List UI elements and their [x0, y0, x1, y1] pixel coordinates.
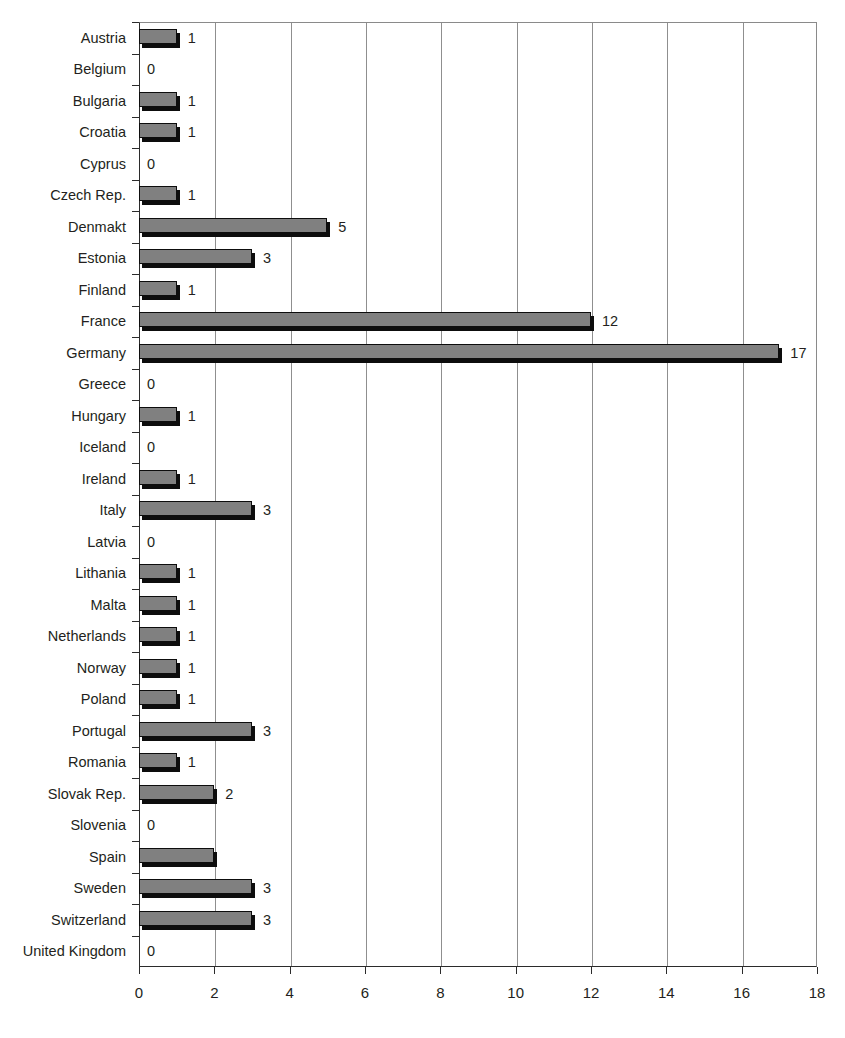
bar-value-label: 3	[263, 913, 271, 928]
x-axis-tick	[817, 967, 818, 974]
bar	[139, 785, 218, 805]
bar-value-label: 3	[263, 724, 271, 739]
y-axis-tick	[132, 747, 139, 748]
gridline	[215, 23, 216, 966]
y-axis-tick	[132, 495, 139, 496]
x-axis-label: 8	[436, 985, 444, 1000]
x-axis-label: 6	[361, 985, 369, 1000]
y-axis-tick	[132, 904, 139, 905]
gridline	[517, 23, 518, 966]
bar-value-label: 1	[188, 692, 196, 707]
bar	[139, 218, 331, 238]
bar-body	[139, 218, 327, 233]
gridline	[441, 23, 442, 966]
bar	[139, 123, 181, 143]
bar	[139, 281, 181, 301]
category-label: Germany	[0, 346, 126, 361]
category-label: United Kingdom	[0, 944, 126, 959]
bar-body	[139, 470, 177, 485]
bar-value-label: 1	[188, 598, 196, 613]
bar	[139, 911, 256, 931]
x-axis-label: 4	[285, 985, 293, 1000]
bar-body	[139, 659, 177, 674]
bar-value-label: 1	[188, 409, 196, 424]
y-axis-tick	[132, 652, 139, 653]
bar-value-label: 17	[790, 346, 806, 361]
x-axis-tick	[440, 967, 441, 974]
y-axis-tick	[132, 22, 139, 23]
bar-body	[139, 92, 177, 107]
bar-value-label: 3	[263, 881, 271, 896]
category-label: Romania	[0, 755, 126, 770]
bar-body	[139, 722, 252, 737]
gridline	[291, 23, 292, 966]
bar-body	[139, 501, 252, 516]
bar-body	[139, 344, 779, 359]
zero-value-label: 0	[147, 62, 155, 77]
y-axis-tick	[132, 589, 139, 590]
bar-value-label: 1	[188, 661, 196, 676]
y-axis-tick	[132, 715, 139, 716]
bar-body	[139, 312, 591, 327]
bar-value-label: 2	[225, 787, 233, 802]
bar-value-label: 1	[188, 283, 196, 298]
bar-body	[139, 848, 214, 863]
bar-body	[139, 690, 177, 705]
category-label: Portugal	[0, 724, 126, 739]
bar-value-label: 1	[188, 94, 196, 109]
x-axis-label: 0	[135, 985, 143, 1000]
category-label: Netherlands	[0, 629, 126, 644]
x-axis-tick	[742, 967, 743, 974]
x-axis-tick	[139, 967, 140, 974]
bar-body	[139, 911, 252, 926]
bar-body	[139, 249, 252, 264]
bar-body	[139, 596, 177, 611]
category-label: Bulgaria	[0, 94, 126, 109]
y-axis-tick	[132, 243, 139, 244]
zero-value-label: 0	[147, 440, 155, 455]
category-label: France	[0, 314, 126, 329]
category-label: Czech Rep.	[0, 188, 126, 203]
bar-body	[139, 29, 177, 44]
y-axis-tick	[132, 337, 139, 338]
category-label: Malta	[0, 598, 126, 613]
x-axis-tick	[290, 967, 291, 974]
x-axis-tick	[365, 967, 366, 974]
bar-body	[139, 186, 177, 201]
bar-body	[139, 627, 177, 642]
category-label: Austria	[0, 31, 126, 46]
x-axis-label: 14	[658, 985, 675, 1000]
y-axis-tick	[132, 180, 139, 181]
x-axis-tick	[666, 967, 667, 974]
zero-value-label: 0	[147, 944, 155, 959]
x-axis-label: 16	[733, 985, 750, 1000]
category-label: Estonia	[0, 251, 126, 266]
bar-body	[139, 281, 177, 296]
plot-area	[139, 22, 817, 967]
bar-value-label: 3	[263, 251, 271, 266]
category-label: Cyprus	[0, 157, 126, 172]
category-label: Spain	[0, 850, 126, 865]
bar	[139, 470, 181, 490]
y-axis-tick	[132, 621, 139, 622]
bar-body	[139, 879, 252, 894]
bar	[139, 753, 181, 773]
x-axis-label: 10	[507, 985, 524, 1000]
y-axis-tick	[132, 85, 139, 86]
bar	[139, 312, 595, 332]
x-axis-tick	[214, 967, 215, 974]
bar-value-label: 1	[188, 31, 196, 46]
category-label: Hungary	[0, 409, 126, 424]
bar	[139, 29, 181, 49]
x-axis-label: 2	[210, 985, 218, 1000]
y-axis-tick	[132, 810, 139, 811]
y-axis-tick	[132, 558, 139, 559]
bar	[139, 848, 218, 868]
gridline	[743, 23, 744, 966]
x-axis-tick	[591, 967, 592, 974]
bar-body	[139, 564, 177, 579]
category-label: Belgium	[0, 62, 126, 77]
bar	[139, 407, 181, 427]
category-label: Switzerland	[0, 913, 126, 928]
category-label: Denmakt	[0, 220, 126, 235]
